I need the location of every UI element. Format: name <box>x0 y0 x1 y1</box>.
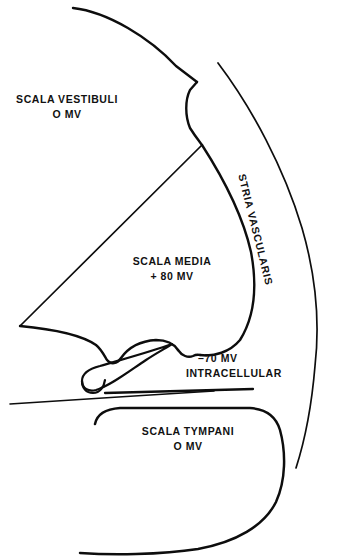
intracellular-potential: –70 MV <box>186 351 290 366</box>
scala-vestibuli-roof-path <box>73 8 197 82</box>
scala-media-potential: + 80 MV <box>122 269 222 284</box>
scala-tympani-name: SCALA TYMPANI <box>142 425 234 437</box>
label-intracellular: –70 MV INTRACELLULAR <box>186 351 290 381</box>
intracellular-name: INTRACELLULAR <box>186 366 290 381</box>
reissners-membrane-path <box>20 145 202 326</box>
spiral-limbus-path <box>20 326 178 363</box>
cochlea-diagram: SCALA VESTIBULI O MV SCALA MEDIA + 80 MV… <box>0 0 354 558</box>
scala-media-name: SCALA MEDIA <box>133 255 212 267</box>
scala-vestibuli-notch-wall-path <box>186 82 202 145</box>
label-scala-tympani: SCALA TYMPANI O MV <box>134 424 242 454</box>
scala-tympani-potential: O MV <box>134 439 242 454</box>
label-scala-vestibuli: SCALA VESTIBULI O MV <box>8 92 126 122</box>
scala-vestibuli-potential: O MV <box>8 107 126 122</box>
scala-vestibuli-name: SCALA VESTIBULI <box>16 93 118 105</box>
label-scala-media: SCALA MEDIA + 80 MV <box>122 254 222 284</box>
